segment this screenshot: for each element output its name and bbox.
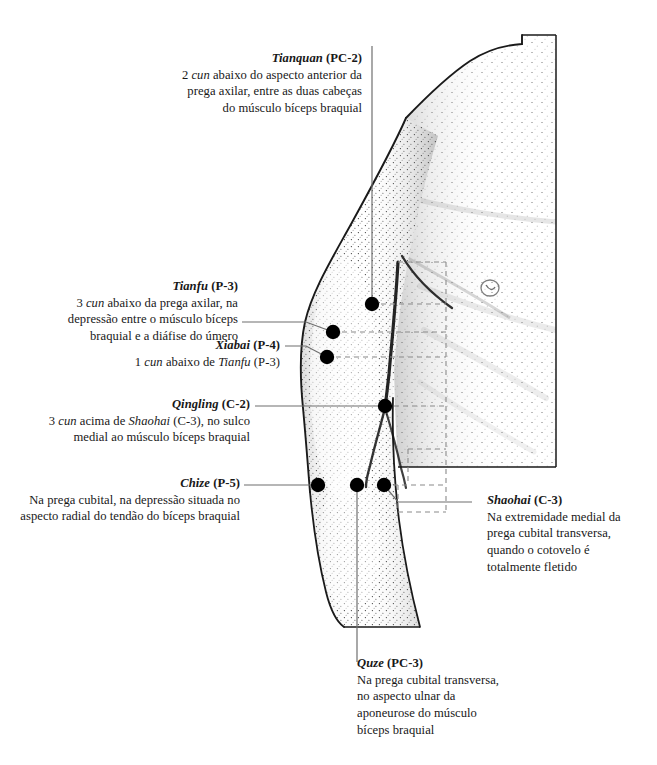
annotation-shaohai-line-3: totalmente fletido bbox=[487, 559, 647, 576]
annotation-chize-name: Chize bbox=[180, 476, 210, 490]
annotation-shaohai-line-0: Na extremidade medial da bbox=[487, 509, 647, 526]
point-marker-quze[interactable] bbox=[350, 478, 364, 492]
annotation-chize-line-0: Na prega cubital, na depressão situada n… bbox=[8, 492, 240, 509]
annotation-tianfu-name: Tianfu bbox=[172, 279, 208, 293]
annotation-tianquan-code: (PC-2) bbox=[326, 51, 362, 65]
annotation-tianquan-line-2: do músculo bíceps braquial bbox=[150, 100, 362, 117]
annotation-tianquan-line-1: prega axilar, entre as duas cabeças bbox=[150, 83, 362, 100]
annotation-tianquan-line-0: 2 cun abaixo do aspecto anterior da bbox=[150, 67, 362, 84]
annotation-shaohai: Shaohai (C-3) Na extremidade medial da p… bbox=[487, 492, 647, 576]
annotation-chize-code: (P-5) bbox=[213, 476, 240, 490]
annotation-tianquan-name: Tianquan bbox=[272, 51, 323, 65]
point-marker-xiabai[interactable] bbox=[320, 350, 334, 364]
annotation-qingling-code: (C-2) bbox=[222, 397, 250, 411]
annotation-quze-name: Quze bbox=[357, 656, 384, 670]
annotation-qingling-line-0: 3 cun acima de Shaohai (C-3), no sulco bbox=[18, 413, 250, 430]
annotation-quze-code: (PC-3) bbox=[387, 656, 423, 670]
annotation-shaohai-code: (C-3) bbox=[534, 493, 562, 507]
annotation-tianquan: Tianquan (PC-2) 2 cun abaixo do aspecto … bbox=[150, 50, 362, 117]
annotation-xiabai-name: Xiabai bbox=[215, 338, 250, 352]
annotation-tianfu-line-0: 3 cun abaixo da prega axilar, na bbox=[30, 295, 238, 312]
annotation-quze-line-0: Na prega cubital transversa, bbox=[357, 672, 537, 689]
annotation-qingling-line-1: medial ao músculo bíceps braquial bbox=[18, 429, 250, 446]
annotation-shaohai-name: Shaohai bbox=[487, 493, 531, 507]
annotation-xiabai-line-0: 1 cun abaixo de Tianfu (P-3) bbox=[60, 354, 280, 371]
annotation-shaohai-line-2: quando o cotovelo é bbox=[487, 542, 647, 559]
annotation-xiabai: Xiabai (P-4) 1 cun abaixo de Tianfu (P-3… bbox=[60, 337, 280, 370]
point-marker-tianquan[interactable] bbox=[365, 297, 379, 311]
annotation-quze-line-1: no aspecto ulnar da bbox=[357, 688, 537, 705]
annotation-tianfu-code: (P-3) bbox=[211, 279, 238, 293]
figure-page: Tianquan (PC-2) 2 cun abaixo do aspecto … bbox=[0, 0, 657, 765]
point-marker-qingling[interactable] bbox=[378, 399, 392, 413]
annotation-quze-line-2: aponeurose do músculo bbox=[357, 705, 537, 722]
point-marker-shaohai[interactable] bbox=[377, 478, 391, 492]
annotation-shaohai-line-1: prega cubital transversa, bbox=[487, 525, 647, 542]
annotation-chize-line-1: aspecto radial do tendão do bíceps braqu… bbox=[8, 508, 240, 525]
point-marker-tianfu[interactable] bbox=[326, 325, 340, 339]
annotation-tianfu-line-1: depressão entre o músculo bíceps bbox=[30, 311, 238, 328]
annotation-chize: Chize (P-5) Na prega cubital, na depress… bbox=[8, 475, 240, 525]
annotation-qingling-name: Qingling bbox=[172, 397, 219, 411]
annotation-quze: Quze (PC-3) Na prega cubital transversa,… bbox=[357, 655, 537, 739]
point-marker-chize[interactable] bbox=[311, 478, 325, 492]
annotation-xiabai-code: (P-4) bbox=[253, 338, 280, 352]
annotation-quze-line-3: bíceps braquial bbox=[357, 722, 537, 739]
annotation-tianfu: Tianfu (P-3) 3 cun abaixo da prega axila… bbox=[30, 278, 238, 345]
annotation-qingling: Qingling (C-2) 3 cun acima de Shaohai (C… bbox=[18, 396, 250, 446]
